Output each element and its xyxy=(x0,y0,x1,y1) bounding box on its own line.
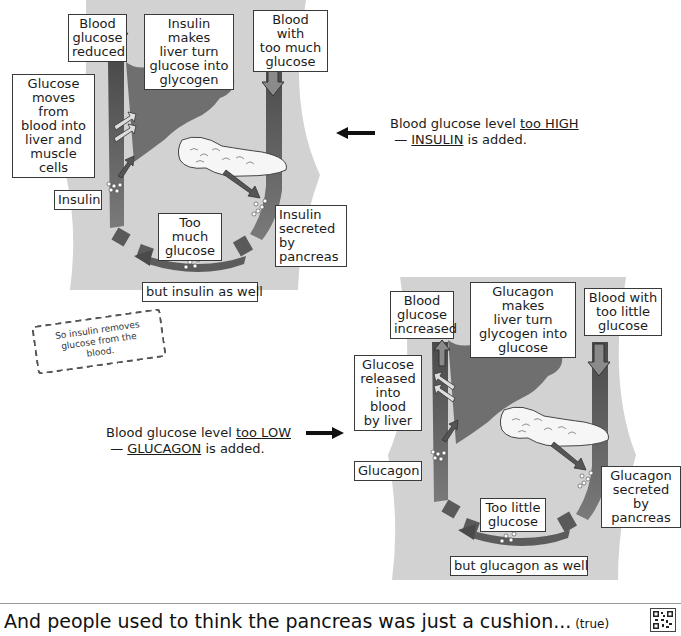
label-text: but glucagon as well xyxy=(454,558,588,573)
label-text: Glucagon xyxy=(358,463,419,478)
footer-divider xyxy=(0,603,681,604)
label-text: Too much glucose xyxy=(165,215,215,258)
label-blood-glucose-reduced: Blood glucose reduced xyxy=(68,14,127,62)
label-text: Insulin makes liver turn glucose into gl… xyxy=(149,16,228,87)
label-too-little-glucose: Too little glucose xyxy=(480,498,546,532)
qr-code-icon xyxy=(650,608,676,632)
label-text: Glucagon makes liver turn glycogen into … xyxy=(479,284,567,355)
right-pointing-arrow-icon xyxy=(306,427,344,439)
label-text: Insulin secreted by pancreas xyxy=(279,207,338,264)
left-blood-vessel xyxy=(108,60,124,228)
caption-text: — xyxy=(394,132,411,147)
label-text: but insulin as well xyxy=(146,284,263,299)
label-text: Glucose moves from blood into liver and … xyxy=(21,76,86,175)
footer-text: And people used to think the pancreas wa… xyxy=(4,610,571,632)
label-insulin: Insulin xyxy=(54,190,102,210)
caption-hormone: INSULIN xyxy=(411,132,463,147)
caption-text: Blood glucose level xyxy=(106,425,236,440)
label-text: Glucagon secreted by pancreas xyxy=(610,468,671,525)
footer-aside: (true) xyxy=(571,617,609,631)
label-glucagon: Glucagon xyxy=(354,461,422,481)
label-blood-glucose-increased: Blood glucose increased xyxy=(390,291,454,339)
label-but-glucagon-as-well: but glucagon as well xyxy=(450,556,588,576)
caption-hormone: GLUCAGON xyxy=(127,441,201,456)
caption-text: Blood glucose level xyxy=(390,116,520,131)
label-glucose-moves: Glucose moves from blood into liver and … xyxy=(12,74,95,178)
label-text: Blood with too little glucose xyxy=(589,290,657,333)
label-text: Blood glucose reduced xyxy=(72,16,125,59)
label-text: Too little glucose xyxy=(486,500,541,529)
label-text: Glucose released into blood by liver xyxy=(360,357,416,428)
label-insulin-secreted: Insulin secreted by pancreas xyxy=(275,205,347,267)
caption-too-high: Blood glucose level too HIGH — INSULIN i… xyxy=(390,116,579,148)
label-text: Insulin xyxy=(58,192,101,207)
caption-emphasis: too LOW xyxy=(236,425,291,440)
caption-too-low: Blood glucose level too LOW — GLUCAGON i… xyxy=(106,425,291,457)
label-blood-too-little-glucose: Blood with too little glucose xyxy=(584,288,662,336)
label-glucagon-makes-liver: Glucagon makes liver turn glycogen into … xyxy=(470,282,576,358)
label-text: Blood with too much glucose xyxy=(260,12,321,69)
label-blood-too-much-glucose: Blood with too much glucose xyxy=(253,10,328,72)
left-pointing-arrow-icon xyxy=(336,127,375,139)
stamp-text: So insulin removes glucose from the bloo… xyxy=(55,319,141,359)
label-text: Blood glucose increased xyxy=(394,293,457,336)
caption-emphasis: too HIGH xyxy=(520,116,579,131)
footer-caption: And people used to think the pancreas wa… xyxy=(4,610,609,632)
label-glucose-released: Glucose released into blood by liver xyxy=(354,355,422,431)
label-too-much-glucose: Too much glucose xyxy=(158,213,222,261)
label-insulin-makes-liver: Insulin makes liver turn glucose into gl… xyxy=(144,14,234,90)
caption-text: is added. xyxy=(201,441,265,456)
label-glucagon-secreted: Glucagon secreted by pancreas xyxy=(601,466,681,528)
caption-text: — xyxy=(110,441,127,456)
label-but-insulin-as-well: but insulin as well xyxy=(142,282,258,302)
caption-text: is added. xyxy=(463,132,527,147)
